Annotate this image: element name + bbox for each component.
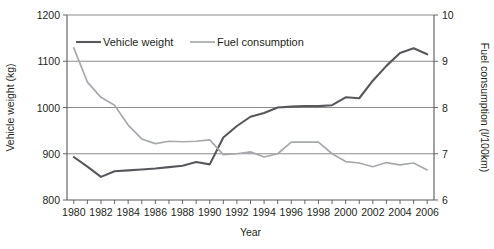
y-axis-left-title: Vehicle weight (kg) bbox=[4, 63, 16, 151]
x-tick-label: 1986 bbox=[144, 206, 168, 218]
x-tick-label: 2002 bbox=[361, 206, 385, 218]
legend-label-vehicle-weight: Vehicle weight bbox=[103, 36, 173, 48]
x-tick-label: 1994 bbox=[252, 206, 276, 218]
x-tick-label: 1980 bbox=[62, 206, 86, 218]
x-tick-label: 2006 bbox=[416, 206, 440, 218]
series-line-fuel-consumption bbox=[74, 48, 427, 170]
y-axis-left-tickmarks-group bbox=[63, 15, 67, 200]
y-left-tick-label: 800 bbox=[42, 194, 60, 206]
x-tick-label: 1982 bbox=[89, 206, 113, 218]
x-tick-label: 1988 bbox=[171, 206, 195, 218]
x-tick-label: 2000 bbox=[334, 206, 358, 218]
x-axis-title: Year bbox=[240, 226, 262, 238]
x-axis-tick-labels-group: 1980198219841986198819901992199419961998… bbox=[62, 206, 439, 218]
x-tick-label: 1998 bbox=[307, 206, 331, 218]
series-line-vehicle-weight bbox=[74, 48, 427, 177]
y-right-tick-label: 7 bbox=[442, 148, 448, 160]
y-axis-left-tick-labels-group: 800900100011001200 bbox=[37, 9, 61, 206]
x-tick-label: 1992 bbox=[225, 206, 249, 218]
y-left-tick-label: 1200 bbox=[37, 9, 61, 21]
y-axis-right-tickmarks-group bbox=[434, 15, 438, 200]
dual-axis-line-chart: 1980198219841986198819901992199419961998… bbox=[0, 0, 494, 249]
y-right-tick-label: 9 bbox=[442, 55, 448, 67]
x-axis-tickmarks-group bbox=[74, 200, 427, 204]
y-left-tick-label: 1100 bbox=[37, 55, 60, 67]
x-tick-label: 1996 bbox=[280, 206, 304, 218]
y-axis-right-title: Fuel consumption (l/100km) bbox=[479, 43, 491, 173]
y-axis-right-tick-labels-group: 678910 bbox=[442, 9, 454, 206]
chart-container: 1980198219841986198819901992199419961998… bbox=[0, 0, 494, 249]
y-right-tick-label: 10 bbox=[442, 9, 454, 21]
y-left-tick-label: 900 bbox=[42, 148, 60, 160]
legend-label-fuel-consumption: Fuel consumption bbox=[217, 36, 304, 48]
y-left-tick-label: 1000 bbox=[37, 102, 61, 114]
x-tick-label: 1984 bbox=[116, 206, 140, 218]
data-series-group bbox=[74, 48, 427, 177]
y-right-tick-label: 8 bbox=[442, 102, 448, 114]
chart-legend: Vehicle weight Fuel consumption bbox=[76, 36, 304, 48]
x-tick-label: 2004 bbox=[388, 206, 412, 218]
x-tick-label: 1990 bbox=[198, 206, 222, 218]
y-right-tick-label: 6 bbox=[442, 194, 448, 206]
